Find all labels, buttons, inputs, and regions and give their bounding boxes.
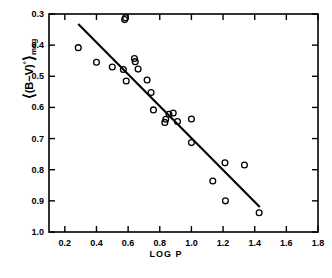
- x-tick-label-1.0: 1.0: [185, 238, 198, 248]
- y-axis-label-close-bracket: ⟩: [20, 55, 37, 61]
- regression-line: [78, 24, 259, 207]
- axis-frame: [49, 14, 318, 232]
- x-axis-ticks: [65, 14, 318, 232]
- x-tick-label-1.2: 1.2: [217, 238, 230, 248]
- x-tick-label-0.2: 0.2: [59, 238, 72, 248]
- x-tick-label-1.4: 1.4: [248, 238, 261, 248]
- x-tick-label-1.8: 1.8: [312, 238, 325, 248]
- y-tick-label-0.9: 0.9: [31, 196, 44, 206]
- y-axis-ticks: [49, 14, 318, 232]
- x-axis-label: LOG P: [0, 249, 332, 259]
- y-tick-label-1.0: 1.0: [31, 227, 44, 237]
- x-tick-label-0.8: 0.8: [153, 238, 166, 248]
- x-tick-label-1.6: 1.6: [280, 238, 293, 248]
- y-tick-label-0.4: 0.4: [31, 40, 44, 50]
- y-tick-label-0.3: 0.3: [31, 9, 44, 19]
- plot-area: [0, 0, 332, 278]
- x-tick-label-0.4: 0.4: [90, 238, 103, 248]
- chart-figure: ⟨(B−V)°⟩mag LOG P 0.30.40.50.60.70.80.91…: [0, 0, 332, 278]
- y-tick-label-0.7: 0.7: [31, 134, 44, 144]
- y-tick-label-0.6: 0.6: [31, 102, 44, 112]
- y-axis-label-superscript: °: [22, 61, 31, 64]
- y-axis-label-open-bracket: ⟨: [20, 93, 37, 99]
- x-tick-label-0.6: 0.6: [122, 238, 135, 248]
- y-tick-label-0.8: 0.8: [31, 165, 44, 175]
- y-tick-label-0.5: 0.5: [31, 71, 44, 81]
